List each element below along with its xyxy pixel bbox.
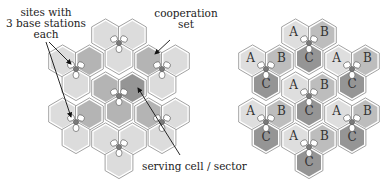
cooperation-label: cooperation set	[154, 8, 218, 30]
sector-label: A	[331, 51, 341, 65]
sector-label: A	[288, 78, 298, 92]
cooperation-label-line-2: set	[154, 19, 218, 30]
sector-label: B	[363, 104, 372, 118]
sector-label: A	[245, 51, 255, 65]
sector-label: A	[245, 104, 255, 118]
sector-label: A	[288, 25, 298, 39]
sector-label: B	[277, 51, 286, 65]
sector-label: B	[363, 51, 372, 65]
sector-label: B	[320, 78, 329, 92]
sector-label: A	[331, 104, 341, 118]
sector-label: A	[288, 129, 298, 143]
sector-label: B	[320, 25, 329, 39]
serving-label: serving cell / sector	[142, 161, 247, 172]
sites-label-line-3: each	[6, 29, 86, 40]
sector-label: B	[277, 104, 286, 118]
sector-label: B	[320, 129, 329, 143]
sites-label: sites with 3 base stations each	[6, 7, 86, 40]
